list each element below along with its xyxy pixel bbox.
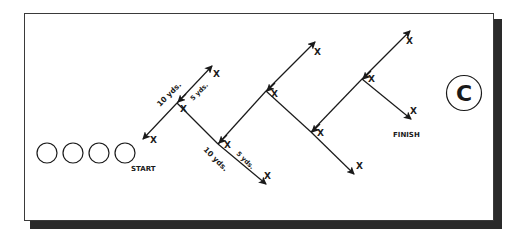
player-circle: [63, 143, 83, 163]
cone-marker: X: [317, 128, 324, 138]
player-circle: [37, 143, 57, 163]
cone-marker: X: [410, 106, 417, 116]
cone-marker: X: [406, 36, 413, 46]
badge-letter: C: [456, 81, 472, 106]
arrow-a-down: [143, 103, 177, 139]
cone-marker: X: [180, 104, 187, 114]
drill-diagram: START X X X X X X X X X X X X: [0, 0, 524, 235]
arrow-e-finish: [362, 79, 411, 119]
arrow-e-up: [362, 31, 410, 79]
drill-badge: C: [447, 76, 482, 111]
arrow-d-down: [311, 132, 354, 174]
distance-label-5yds: 5 yds.: [189, 81, 210, 102]
cone-marker: X: [368, 74, 375, 84]
cone-marker: X: [224, 140, 231, 150]
finish-label: FINISH: [393, 131, 420, 139]
cone-marker: X: [150, 135, 157, 145]
line-d-e: [311, 79, 362, 132]
cone-marker: X: [356, 161, 363, 171]
player-line: [37, 143, 135, 163]
cone-marker: X: [271, 89, 278, 99]
start-label: START: [131, 165, 156, 173]
cone-marker: X: [264, 171, 271, 181]
cone-marker: X: [213, 69, 220, 79]
player-circle: [115, 143, 135, 163]
arrow-c-up: [266, 42, 315, 91]
line-b-c: [218, 91, 266, 144]
player-circle: [89, 143, 109, 163]
cone-markers: X X X X X X X X X X X X: [150, 36, 417, 181]
cone-marker: X: [314, 47, 321, 57]
arrow-to-a: [178, 94, 186, 102]
